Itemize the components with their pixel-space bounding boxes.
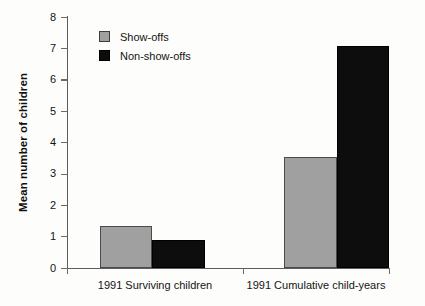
bar-cumulative-nonshowoffs [337,46,389,268]
bar-surviving-nonshowoffs [152,240,205,268]
x-tick-right [389,268,390,274]
y-tick-label-1: 1 [38,230,56,242]
y-tick-label-5: 5 [38,105,56,117]
y-tick-2 [61,205,67,206]
x-tick-left [67,268,68,274]
x-tick-middle [243,268,244,274]
y-tick-label-7: 7 [38,42,56,54]
y-axis-title: Mean number of children [14,17,32,268]
legend: Show-offs Non-show-offs [99,27,191,65]
legend-swatch-nonshowoffs-icon [99,50,110,61]
x-category-label-cumulative: 1991 Cumulative child-years [243,279,389,291]
y-tick-1 [61,236,67,237]
y-tick-label-0: 0 [38,262,56,274]
y-tick-6 [61,79,67,80]
y-tick-7 [61,48,67,49]
legend-item-showoffs: Show-offs [99,27,191,46]
legend-label-showoffs: Show-offs [120,31,169,43]
y-tick-label-2: 2 [38,199,56,211]
y-tick-label-6: 6 [38,73,56,85]
y-tick-label-3: 3 [38,167,56,179]
legend-swatch-showoffs-icon [99,31,110,42]
y-tick-8 [61,17,67,18]
y-tick-3 [61,174,67,175]
y-tick-4 [61,142,67,143]
bar-cumulative-showoffs [284,157,337,269]
y-tick-5 [61,111,67,112]
y-tick-label-4: 4 [38,136,56,148]
legend-item-nonshowoffs: Non-show-offs [99,46,191,65]
y-axis-line [67,16,68,269]
y-tick-label-8: 8 [38,11,56,23]
legend-label-nonshowoffs: Non-show-offs [120,50,191,62]
bar-surviving-showoffs [100,226,152,268]
x-category-label-surviving: 1991 Surviving children [67,279,243,291]
bar-chart: Mean number of children 8 7 6 5 4 3 2 1 … [0,0,425,306]
